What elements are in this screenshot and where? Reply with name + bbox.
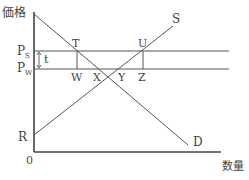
- demand-curve: [34, 14, 188, 145]
- supply-label: S: [172, 12, 180, 26]
- point-t-label: T: [72, 37, 80, 50]
- ps-label-main: P: [17, 44, 25, 58]
- point-x-label: X: [93, 71, 101, 84]
- supply-demand-diagram: 価格 数量 0 P S P W t T U W X Y Z S D R: [0, 0, 249, 180]
- pw-label-sub: W: [25, 69, 33, 77]
- origin-label: 0: [26, 154, 33, 167]
- demand-label: D: [193, 135, 203, 149]
- point-u-label: U: [138, 37, 147, 50]
- pw-label-main: P: [17, 61, 25, 75]
- point-y-label: Y: [117, 71, 126, 84]
- y-axis-label: 価格: [2, 5, 26, 20]
- ps-label-sub: S: [25, 52, 30, 60]
- supply-curve: [34, 26, 173, 135]
- x-axis-label: 数量: [222, 160, 244, 173]
- supply-intercept-label: R: [18, 130, 28, 144]
- diagram-canvas: 価格 数量 0 P S P W t T U W X Y Z S D R: [0, 0, 249, 180]
- point-w-label: W: [71, 71, 83, 84]
- point-z-label: Z: [138, 71, 146, 84]
- tax-label: t: [44, 53, 49, 66]
- tax-arrow-icon: [37, 52, 41, 68]
